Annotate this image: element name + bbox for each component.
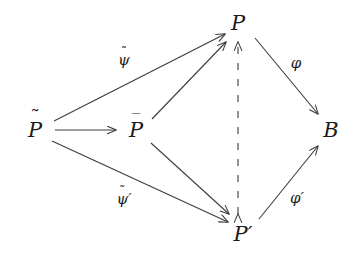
node-p-tilde: ˜ P: [28, 120, 42, 141]
diagram-canvas: [0, 0, 359, 255]
edge-label-phi: φ: [291, 56, 302, 71]
node-b-base: B: [323, 118, 338, 142]
node-b: B: [323, 120, 338, 141]
prime-mark-icon: ′: [128, 190, 131, 208]
arrow-ptilde-to-p: [54, 34, 225, 121]
edge-label-phi-prime: φ′: [290, 191, 304, 206]
node-p-bar: ‾ P: [129, 120, 143, 141]
prime-mark-icon: ′: [301, 189, 304, 207]
edge-label-psi-tilde-prime: ˜ ψ ′: [116, 192, 131, 207]
phi-glyph: φ: [290, 189, 301, 207]
node-p-prime-base: P: [234, 222, 248, 246]
arrow-ptilde-to-pprime: [52, 141, 228, 222]
node-p-tilde-base: P: [28, 118, 42, 142]
node-p-prime: P′: [234, 224, 253, 245]
psi-glyph: ψ: [118, 51, 130, 69]
psi-glyph: ψ: [116, 190, 128, 208]
arrow-pbar-to-pprime: [151, 143, 229, 214]
phi-glyph: φ: [291, 54, 302, 72]
prime-mark-icon: ′: [248, 222, 253, 246]
arrow-pprime-to-b: [259, 146, 318, 219]
node-p-base: P: [231, 11, 245, 35]
edge-label-psi-tilde: ˜ ψ: [118, 53, 130, 68]
arrow-pbar-to-p: [152, 42, 226, 119]
arrow-p-to-b: [255, 38, 318, 114]
node-p: P: [231, 13, 245, 34]
commutative-diagram: ˜ P ‾ P P P′ B ˜ ψ ˜ ψ ′ φ φ′: [0, 0, 359, 255]
node-p-bar-base: P: [129, 118, 143, 142]
